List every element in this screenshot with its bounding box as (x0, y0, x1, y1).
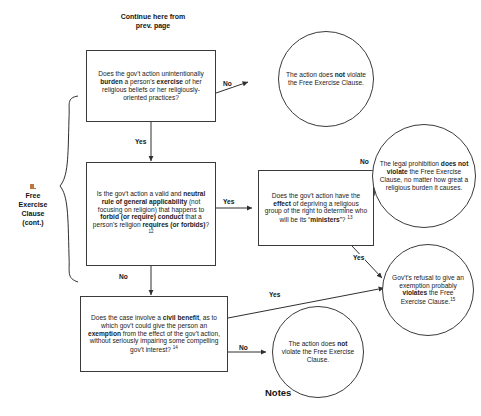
outcome-no-violation-top[interactable]: The action does not violate the Free Exe… (278, 31, 374, 127)
edge-label-no-neutral: No (118, 273, 129, 280)
section-label: II.FreeExerciseClause(cont.) (5, 182, 61, 227)
outcome-legal-prohibition[interactable]: The legal prohibition does not violate t… (372, 124, 476, 228)
continue-note: Continue here fromprev. page (93, 13, 213, 31)
edge-label-yes-ministers: Yes (352, 254, 365, 261)
edge-label-yes-civil: Yes (268, 291, 281, 298)
decision-neutral-rule[interactable]: Is the gov't action a valid and neutral … (86, 162, 216, 266)
edge-label-yes-burden: Yes (134, 138, 147, 145)
notes-heading: Notes (265, 387, 291, 398)
outcome-refusal-violates[interactable]: Gov't's refusal to give an exemption pro… (382, 244, 474, 336)
edge-label-no-burden: No (222, 80, 233, 87)
edge-label-no-ministers: No (359, 158, 370, 165)
decision-burden[interactable]: Does the gov't action unintentionally bu… (86, 50, 216, 122)
section-brace (60, 96, 78, 282)
decision-civil-benefit[interactable]: Does the case involve a civil benefit, a… (80, 296, 228, 372)
edge-label-no-civil: No (238, 344, 249, 351)
edge-label-yes-neutral: Yes (222, 198, 235, 205)
decision-ministers[interactable]: Does the gov't action have the effect of… (258, 170, 374, 246)
outcome-no-violation-bottom[interactable]: The action does not violate the Free Exe… (272, 306, 364, 398)
flowchart-canvas: Continue here fromprev. page II.FreeExer… (0, 0, 481, 416)
